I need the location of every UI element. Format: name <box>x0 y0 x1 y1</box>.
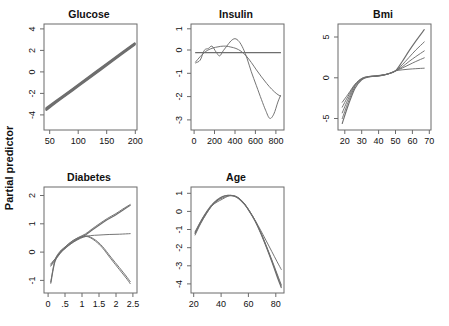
ytick-glucose-3: -2 <box>27 89 37 97</box>
ytick-glucose-2: 0 <box>27 69 37 74</box>
ytick-age-3: -2 <box>174 244 184 252</box>
global-y-axis-label: Partial predictor <box>3 125 15 210</box>
xtick-insulin-0: 0 <box>192 136 197 146</box>
xtick-age-0: 20 <box>189 299 199 309</box>
ytick-insulin-0: 1 <box>174 26 184 31</box>
ytick-diabetes-1: 1 <box>27 221 37 226</box>
xtick-age-1: 40 <box>216 299 226 309</box>
xtick-bmi-0: 20 <box>340 136 350 146</box>
xtick-insulin-4: 800 <box>268 136 283 146</box>
ytick-insulin-3: -2 <box>174 93 184 101</box>
ytick-bmi-1: 0 <box>321 75 331 80</box>
xtick-diabetes-0: 0 <box>46 299 51 309</box>
ytick-insulin-1: 0 <box>174 47 184 52</box>
ytick-age-1: 0 <box>174 209 184 214</box>
ytick-diabetes-3: -1 <box>27 276 37 284</box>
xtick-insulin-2: 400 <box>227 136 242 146</box>
ytick-insulin-4: -3 <box>174 116 184 124</box>
xtick-diabetes-2: 1 <box>79 299 84 309</box>
xtick-glucose-0: 50 <box>45 136 55 146</box>
xtick-bmi-3: 50 <box>390 136 400 146</box>
ytick-age-2: -1 <box>174 225 184 233</box>
ytick-glucose-1: 2 <box>27 48 37 53</box>
xtick-glucose-1: 100 <box>71 136 86 146</box>
xtick-bmi-2: 40 <box>374 136 384 146</box>
panel-title-insulin: Insulin <box>219 8 253 20</box>
ytick-diabetes-2: 0 <box>27 250 37 255</box>
xtick-bmi-1: 30 <box>357 136 367 146</box>
ytick-age-0: 1 <box>174 191 184 196</box>
xtick-bmi-4: 60 <box>407 136 417 146</box>
ytick-glucose-0: 4 <box>27 26 37 31</box>
ytick-bmi-0: 5 <box>321 34 331 39</box>
ytick-insulin-2: -1 <box>174 69 184 77</box>
xtick-bmi-5: 70 <box>424 136 434 146</box>
ytick-diabetes-0: 2 <box>27 193 37 198</box>
panel-title-bmi: Bmi <box>373 8 393 20</box>
panel-title-glucose: Glucose <box>68 8 110 20</box>
ytick-bmi-2: -5 <box>321 114 331 122</box>
xtick-diabetes-5: 2.5 <box>127 299 140 309</box>
xtick-age-3: 80 <box>271 299 281 309</box>
ytick-glucose-4: -4 <box>27 111 37 119</box>
xtick-glucose-3: 200 <box>128 136 143 146</box>
ytick-age-5: -4 <box>174 280 184 288</box>
xtick-glucose-2: 150 <box>99 136 114 146</box>
xtick-age-2: 60 <box>243 299 253 309</box>
ytick-age-4: -3 <box>174 262 184 270</box>
xtick-diabetes-4: 2 <box>113 299 118 309</box>
xtick-insulin-3: 600 <box>248 136 263 146</box>
partial-predictor-figure: Partial predictor Glucose 4 2 0 -2 -4 50… <box>0 0 449 326</box>
panel-title-age: Age <box>226 171 246 183</box>
xtick-insulin-1: 200 <box>207 136 222 146</box>
panel-title-diabetes: Diabetes <box>67 171 111 183</box>
xtick-diabetes-3: 1.5 <box>93 299 106 309</box>
xtick-diabetes-1: .5 <box>61 299 69 309</box>
